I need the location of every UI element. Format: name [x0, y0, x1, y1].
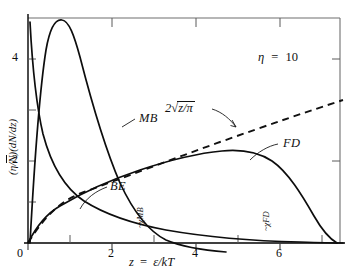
leader-fd: [250, 144, 278, 160]
chi-mb-annotation: ~χMB: [136, 207, 145, 228]
y-axis-title-text: (η/N)(dN/dz): [6, 119, 18, 175]
x-axis-title: z = ε/kT: [129, 256, 174, 269]
x-axis-title-expr: ε/kT: [153, 255, 174, 269]
curve-label-be: BE: [110, 180, 126, 193]
radical-icon: √z/π: [171, 101, 195, 115]
eta-value: 10: [286, 50, 299, 64]
chi-fd-annotation: ~χFD: [262, 211, 271, 231]
x-axis-title-eq: =: [140, 255, 147, 269]
leader-classical-limit: [212, 109, 236, 127]
y-axis-title: (η/N)(dN/dz): [6, 119, 18, 175]
eta-annotation: η = 10: [258, 51, 298, 64]
classical-limit-radicand: z/π: [177, 101, 195, 115]
curve-label-fd: FD: [283, 137, 300, 150]
x-tick-label-6: 6: [276, 247, 282, 259]
curve-label-mb: MB: [139, 112, 158, 125]
x-tick-label-0: 0: [17, 247, 23, 259]
x-axis-title-var: z: [129, 255, 134, 269]
x-tick-label-4: 4: [192, 247, 198, 259]
leader-mb: [122, 119, 135, 127]
eta-equals: =: [271, 50, 278, 64]
y-tick-label-4: 4: [12, 51, 18, 63]
eta-symbol: η: [258, 50, 264, 64]
quantum-statistics-distribution-figure: 4 2 0 2 4 6 (η/N)(dN/dz) z = ε/kT η = 10…: [0, 0, 351, 271]
x-tick-label-2: 2: [108, 247, 114, 259]
curve-classical-limit: [28, 100, 343, 243]
y-axis-ticks: [28, 59, 340, 202]
curve-mb: [30, 20, 226, 252]
classical-limit-annotation: 2√z/π: [165, 101, 195, 115]
